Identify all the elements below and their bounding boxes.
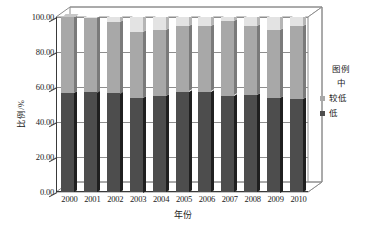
- legend-swatch-icon: [320, 111, 325, 116]
- bar-segment-低: [84, 92, 97, 192]
- bar-segment-side: [257, 24, 260, 95]
- bar-top-face: [269, 14, 285, 17]
- y-axis-line: [56, 17, 57, 192]
- bar-segment-side: [211, 90, 214, 192]
- bar-2001: [84, 17, 97, 192]
- bar-segment-side: [166, 15, 169, 30]
- x-tick-label: 2004: [153, 194, 169, 204]
- bar-segment-side: [120, 20, 123, 94]
- bar-segment-中: [153, 17, 166, 30]
- bar-segment-side: [143, 96, 146, 192]
- legend-item-1[interactable]: 较低: [316, 93, 366, 104]
- bar-segment-side: [166, 95, 169, 192]
- bar-segment-低: [244, 95, 257, 192]
- legend-swatch-icon: [320, 96, 325, 101]
- bar-segment-中: [84, 17, 97, 18]
- bar-top-face: [109, 14, 125, 17]
- bar-segment-side: [143, 15, 146, 31]
- bar-segment-较低: [153, 30, 166, 96]
- legend-item-2[interactable]: 低: [316, 108, 366, 119]
- bar-segment-低: [107, 93, 120, 192]
- bar-segment-side: [143, 30, 146, 98]
- bar-segment-side: [74, 15, 77, 92]
- bar-2002: [107, 17, 120, 192]
- bar-segment-中: [107, 17, 120, 22]
- bar-top-face: [178, 14, 194, 17]
- bar-2008: [244, 17, 257, 192]
- bar-segment-较低: [221, 21, 234, 95]
- bar-segment-较低: [84, 18, 97, 93]
- bar-segment-side: [189, 24, 192, 91]
- bar-2003: [130, 17, 143, 192]
- bar-segment-side: [303, 97, 306, 192]
- bar-segment-低: [61, 93, 74, 192]
- bar-segment-低: [198, 92, 211, 192]
- legend-label: 较低: [329, 94, 347, 103]
- bar-segment-side: [97, 90, 100, 192]
- bar-segment-side: [234, 94, 237, 192]
- bar-segment-中: [267, 17, 280, 30]
- bar-segment-中: [244, 17, 257, 26]
- plot-area: [56, 17, 308, 192]
- bar-2010: [290, 17, 303, 192]
- bar-2009: [267, 17, 280, 192]
- bar-2005: [176, 17, 189, 192]
- bar-segment-side: [280, 28, 283, 98]
- chart-figure: 100.00 80.00 60.00 40.00 20.00 0.00 比例/%…: [0, 0, 366, 228]
- bar-segment-中: [221, 17, 234, 21]
- legend-title: 图例: [316, 62, 366, 74]
- bar-segment-较低: [244, 26, 257, 95]
- x-tick-label: 2003: [130, 194, 146, 204]
- bar-segment-side: [166, 28, 169, 96]
- bar-segment-side: [120, 92, 123, 192]
- bar-segment-较低: [198, 26, 211, 91]
- bar-top-face: [63, 14, 79, 17]
- bar-segment-side: [234, 20, 237, 96]
- bar-segment-较低: [267, 30, 280, 98]
- bar-segment-中: [290, 17, 303, 26]
- bar-segment-side: [303, 24, 306, 99]
- x-tick-label: 2008: [245, 194, 261, 204]
- bar-segment-side: [97, 16, 100, 92]
- bar-segment-side: [280, 96, 283, 192]
- bar-top-face: [155, 14, 171, 17]
- bar-segment-较低: [130, 32, 143, 98]
- legend-item-0[interactable]: 中: [316, 78, 366, 89]
- legend-label: 中: [337, 79, 346, 88]
- bar-segment-中: [176, 17, 189, 26]
- x-axis-title: 年份: [0, 208, 366, 221]
- bar-2007: [221, 17, 234, 192]
- bar-top-face: [86, 14, 102, 17]
- bar-2000: [61, 17, 74, 192]
- bar-segment-较低: [61, 17, 74, 93]
- bar-segment-低: [221, 96, 234, 192]
- bar-segment-中: [198, 17, 211, 26]
- bar-segment-side: [211, 25, 214, 92]
- x-tick-label: 2009: [268, 194, 284, 204]
- bar-segment-side: [257, 93, 260, 192]
- bar-segment-低: [176, 92, 189, 192]
- x-tick-label: 2007: [222, 194, 238, 204]
- bar-2006: [198, 17, 211, 192]
- x-tick-label: 2006: [199, 194, 215, 204]
- bar-top-face: [292, 14, 308, 17]
- x-tick-label: 2001: [84, 194, 100, 204]
- x-tick-label: 2000: [61, 194, 77, 204]
- bar-segment-较低: [290, 26, 303, 99]
- bar-segment-side: [74, 91, 77, 192]
- bar-2004: [153, 17, 166, 192]
- bar-segment-side: [280, 15, 283, 29]
- bar-segment-低: [290, 99, 303, 192]
- bar-segment-低: [130, 98, 143, 193]
- bar-segment-较低: [107, 22, 120, 94]
- bar-top-face: [132, 14, 148, 17]
- x-tick-label: 2002: [107, 194, 123, 204]
- legend-entries: 中较低低: [316, 78, 366, 119]
- legend: 图例 中较低低: [316, 62, 366, 123]
- x-tick-label: 2010: [290, 194, 306, 204]
- bar-segment-低: [267, 98, 280, 193]
- bar-segment-中: [130, 17, 143, 32]
- x-tick-label: 2005: [176, 194, 192, 204]
- bar-segment-较低: [176, 26, 189, 91]
- y-axis-title: 比例/%: [14, 100, 26, 127]
